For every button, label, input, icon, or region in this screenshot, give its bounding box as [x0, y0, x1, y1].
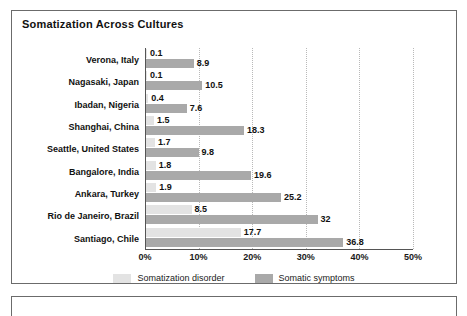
bar-group: Nagasaki, Japan0.110.5 — [145, 71, 413, 93]
bar-group: Rio de Janeiro, Brazil8.532 — [145, 205, 413, 227]
legend-item: Somatic symptoms — [255, 273, 355, 283]
category-label: Ibadan, Nigeria — [74, 100, 139, 110]
bar-somatization-disorder — [146, 94, 148, 103]
x-tick-label: 30% — [297, 252, 315, 262]
category-label: Shanghai, China — [68, 122, 139, 132]
category-label: Rio de Janeiro, Brazil — [47, 211, 139, 221]
bar-somatic-symptoms — [146, 171, 251, 180]
bar-group: Santiago, Chile17.736.8 — [145, 228, 413, 250]
bar-value-label: 0.1 — [150, 49, 163, 58]
bar-somatization-disorder — [146, 49, 147, 58]
bar-value-label: 8.5 — [195, 205, 208, 214]
x-tick-label: 10% — [190, 252, 208, 262]
category-label: Santiago, Chile — [74, 234, 139, 244]
category-label: Bangalore, India — [69, 167, 139, 177]
bar-somatization-disorder — [146, 116, 154, 125]
bar-group: Bangalore, India1.819.6 — [145, 161, 413, 183]
gridline-50% — [413, 48, 414, 249]
bar-value-label: 19.6 — [254, 171, 272, 180]
bar-value-label: 0.1 — [150, 71, 163, 80]
bar-value-label: 1.5 — [157, 116, 170, 125]
bar-value-label: 8.9 — [197, 59, 210, 68]
legend-label: Somatization disorder — [137, 273, 224, 283]
bar-value-label: 10.5 — [205, 81, 223, 90]
bar-group: Shanghai, China1.518.3 — [145, 116, 413, 138]
x-tick-label: 50% — [404, 252, 422, 262]
bar-group: Verona, Italy0.18.9 — [145, 49, 413, 71]
x-tick-label: 40% — [350, 252, 368, 262]
page-title: Somatization Across Cultures — [22, 18, 184, 30]
bar-value-label: 36.8 — [346, 238, 364, 247]
category-label: Ankara, Turkey — [75, 189, 139, 199]
bar-group: Ibadan, Nigeria0.47.6 — [145, 94, 413, 116]
bar-somatic-symptoms — [146, 126, 244, 135]
bar-value-label: 18.3 — [247, 126, 265, 135]
chart-legend: Somatization disorderSomatic symptoms — [12, 273, 456, 283]
x-tick-label: 20% — [243, 252, 261, 262]
bar-somatic-symptoms — [146, 238, 343, 247]
bar-somatization-disorder — [146, 205, 192, 214]
bar-group: Seattle, United States1.79.8 — [145, 138, 413, 160]
plot-area: 0%10%20%30%40%50% Verona, Italy0.18.9Nag… — [145, 48, 413, 249]
bar-somatic-symptoms — [146, 193, 281, 202]
bar-value-label: 1.8 — [159, 161, 172, 170]
bar-value-label: 9.8 — [202, 148, 215, 157]
category-label: Nagasaki, Japan — [68, 77, 139, 87]
bar-somatization-disorder — [146, 71, 147, 80]
bar-somatic-symptoms — [146, 59, 194, 68]
legend-swatch-icon — [255, 274, 273, 283]
chart-figure: Somatization Across Cultures 0%10%20%30%… — [11, 10, 457, 284]
legend-label: Somatic symptoms — [279, 273, 355, 283]
bar-value-label: 7.6 — [190, 104, 203, 113]
category-label: Verona, Italy — [86, 55, 139, 65]
bar-somatic-symptoms — [146, 81, 202, 90]
x-tick-label: 0% — [138, 252, 151, 262]
bar-value-label: 0.4 — [151, 94, 164, 103]
bar-somatization-disorder — [146, 183, 156, 192]
bar-value-label: 25.2 — [284, 193, 302, 202]
bar-somatic-symptoms — [146, 215, 318, 224]
bar-group: Ankara, Turkey1.925.2 — [145, 183, 413, 205]
bar-value-label: 17.7 — [244, 228, 262, 237]
bar-value-label: 32 — [321, 215, 331, 224]
bar-somatic-symptoms — [146, 104, 187, 113]
legend-swatch-icon — [113, 274, 131, 283]
legend-item: Somatization disorder — [113, 273, 224, 283]
bar-value-label: 1.7 — [158, 138, 171, 147]
category-label: Seattle, United States — [47, 144, 139, 154]
footer-box — [11, 296, 457, 316]
bar-somatic-symptoms — [146, 148, 199, 157]
bar-somatization-disorder — [146, 138, 155, 147]
bar-value-label: 1.9 — [159, 183, 172, 192]
bar-somatization-disorder — [146, 228, 241, 237]
bar-somatization-disorder — [146, 161, 156, 170]
